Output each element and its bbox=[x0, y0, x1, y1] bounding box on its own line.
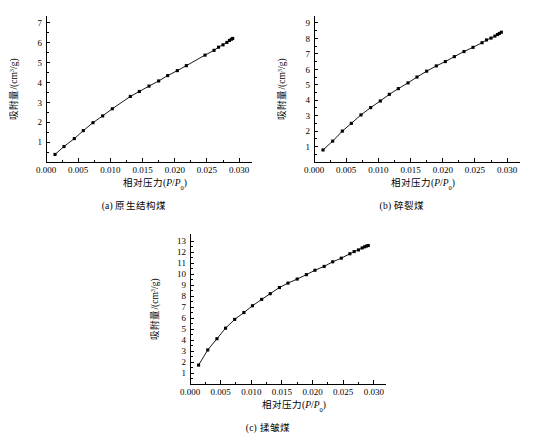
data-point-marker bbox=[406, 81, 409, 84]
y-tick-label: 7 bbox=[38, 18, 43, 28]
data-point-marker bbox=[379, 99, 382, 102]
data-point-marker bbox=[203, 54, 206, 57]
x-tick-label: 0.000 bbox=[180, 387, 201, 397]
data-point-marker bbox=[91, 121, 94, 124]
y-tick-label: 11 bbox=[177, 258, 186, 268]
y-tick-label: 3 bbox=[182, 346, 187, 356]
y-tick-label: 4 bbox=[182, 335, 187, 345]
x-tick-label: 0.020 bbox=[302, 387, 323, 397]
y-tick-label: 6 bbox=[38, 38, 43, 48]
data-point-marker bbox=[101, 114, 104, 117]
data-point-marker bbox=[212, 49, 215, 52]
data-point-marker bbox=[166, 74, 169, 77]
y-tick-label: 10 bbox=[177, 269, 187, 279]
x-tick-label: 0.015 bbox=[132, 165, 153, 175]
data-point-marker bbox=[444, 60, 447, 63]
x-tick-label: 0.030 bbox=[497, 165, 518, 175]
y-tick-label: 4 bbox=[38, 78, 43, 88]
data-point-marker bbox=[348, 252, 351, 255]
data-point-marker bbox=[217, 46, 220, 49]
x-axis-title-text: 相对压力( bbox=[262, 399, 305, 411]
data-point-marker bbox=[353, 250, 356, 253]
data-point-marker bbox=[341, 130, 344, 133]
y-tick-label: 5 bbox=[182, 324, 187, 334]
y-tick-label: 3 bbox=[306, 111, 311, 121]
y-tick-label: 3 bbox=[38, 98, 43, 108]
data-point-marker bbox=[231, 37, 234, 40]
data-point-marker bbox=[480, 41, 483, 44]
x-tick-label: 0.000 bbox=[36, 165, 57, 175]
y-tick-label: 7 bbox=[306, 49, 311, 59]
data-point-marker bbox=[331, 260, 334, 263]
data-point-marker bbox=[313, 269, 316, 272]
data-point-marker bbox=[340, 257, 343, 260]
chart-b-plot: 0.0000.0050.0100.0150.0200.0250.03012345… bbox=[268, 2, 536, 200]
data-point-marker bbox=[206, 348, 209, 351]
x-tick-label: 0.010 bbox=[368, 165, 389, 175]
y-axis-title: 吸附量/(cm3/g) bbox=[276, 58, 289, 119]
x-tick-label: 0.005 bbox=[336, 165, 357, 175]
y-axis-title-text: 吸附量/(cm bbox=[149, 292, 161, 340]
chart-panel-a: 0.0000.0050.0100.0150.0200.0250.03012345… bbox=[0, 2, 268, 214]
data-point-marker bbox=[82, 129, 85, 132]
x-axis-title-text: 相对压力( bbox=[391, 177, 434, 189]
data-point-marker bbox=[388, 93, 391, 96]
data-point-marker bbox=[453, 55, 456, 58]
y-tick-label: 7 bbox=[182, 302, 187, 312]
y-axis-title-end: /g) bbox=[277, 58, 288, 69]
data-point-marker bbox=[500, 31, 503, 34]
data-point-marker bbox=[73, 137, 76, 140]
chart-a-caption: (a) 原生结构煤 bbox=[0, 200, 268, 212]
data-point-marker bbox=[367, 244, 370, 247]
x-tick-label: 0.020 bbox=[165, 165, 186, 175]
y-tick-label: 1 bbox=[306, 142, 311, 152]
data-point-marker bbox=[111, 107, 114, 110]
data-point-marker bbox=[435, 64, 438, 67]
data-point-marker bbox=[331, 140, 334, 143]
y-tick-label: 1 bbox=[38, 137, 43, 147]
chart-a-plot: 0.0000.0050.0100.0150.0200.0250.03012345… bbox=[0, 2, 268, 200]
y-tick-label: 2 bbox=[38, 117, 43, 127]
data-point-marker bbox=[224, 327, 227, 330]
data-point-marker bbox=[350, 122, 353, 125]
y-tick-label: 13 bbox=[177, 236, 187, 246]
x-tick-label: 0.030 bbox=[229, 165, 250, 175]
chart-c-plot: 0.0000.0050.0100.0150.0200.0250.03012345… bbox=[134, 218, 402, 422]
data-point-marker bbox=[129, 95, 132, 98]
data-point-marker bbox=[425, 70, 428, 73]
y-tick-label: 2 bbox=[182, 357, 187, 367]
x-tick-label: 0.025 bbox=[465, 165, 486, 175]
y-tick-label: 6 bbox=[182, 313, 187, 323]
x-axis-title: 相对压力(P/P0) bbox=[262, 399, 326, 413]
data-point-marker bbox=[269, 292, 272, 295]
x-tick-label: 0.025 bbox=[333, 387, 354, 397]
data-point-marker bbox=[359, 113, 362, 116]
y-tick-label: 12 bbox=[177, 247, 186, 257]
x-axis-title-close: ) bbox=[323, 400, 326, 411]
data-point-marker bbox=[185, 64, 188, 67]
data-point-marker bbox=[53, 153, 56, 156]
x-tick-label: 0.015 bbox=[272, 387, 293, 397]
y-tick-label: 9 bbox=[182, 280, 187, 290]
y-axis-title: 吸附量/(cm3/g) bbox=[8, 58, 21, 119]
y-axis-title: 吸附量/(cm3/g) bbox=[149, 278, 162, 339]
chart-b-caption: (b) 碎裂煤 bbox=[268, 200, 536, 212]
data-point-marker bbox=[369, 106, 372, 109]
y-tick-label: 5 bbox=[306, 80, 311, 90]
x-tick-label: 0.005 bbox=[211, 387, 232, 397]
data-point-marker bbox=[415, 75, 418, 78]
x-axis-title: 相对压力(P/P0) bbox=[391, 177, 455, 191]
data-point-marker bbox=[357, 248, 360, 251]
data-point-marker bbox=[251, 304, 254, 307]
data-point-marker bbox=[62, 145, 65, 148]
x-tick-label: 0.010 bbox=[241, 387, 262, 397]
data-point-marker bbox=[221, 43, 224, 46]
data-point-marker bbox=[489, 37, 492, 40]
y-tick-label: 5 bbox=[38, 58, 43, 68]
y-tick-label: 4 bbox=[306, 95, 311, 105]
x-tick-label: 0.020 bbox=[433, 165, 454, 175]
y-tick-label: 6 bbox=[306, 65, 311, 75]
data-point-marker bbox=[296, 278, 299, 281]
data-point-marker bbox=[215, 337, 218, 340]
x-axis-title-text: 相对压力( bbox=[123, 177, 166, 189]
